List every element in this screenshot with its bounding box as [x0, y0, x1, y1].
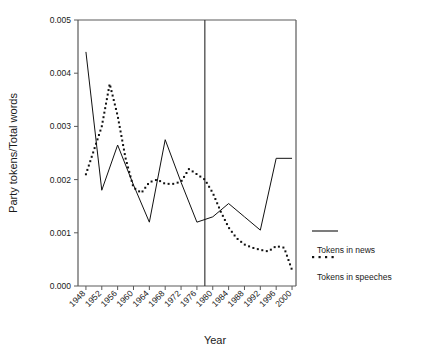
data-dot: [284, 250, 286, 252]
data-dot: [113, 99, 115, 101]
data-dot: [220, 211, 222, 213]
data-dot: [270, 249, 272, 251]
data-dot: [206, 182, 208, 184]
data-dot: [144, 187, 146, 189]
data-dot: [213, 194, 215, 196]
data-dot: [172, 183, 174, 185]
data-dot: [163, 182, 165, 184]
data-dot: [125, 158, 127, 160]
data-dot: [138, 190, 140, 192]
data-dot: [188, 168, 190, 170]
data-dot: [116, 112, 118, 114]
chart-legend: Tokens in news Tokens in speeches: [312, 231, 392, 282]
data-dot: [168, 183, 170, 185]
x-tick-label: 1976: [178, 288, 199, 309]
data-dot: [185, 172, 187, 174]
data-dot: [92, 151, 94, 153]
y-tick-label: 0.001: [50, 228, 72, 238]
data-dot: [88, 165, 90, 167]
x-tick-label: 1964: [130, 288, 151, 309]
data-dot: [240, 241, 242, 243]
data-dot: [103, 116, 105, 118]
y-tick-label: 0.005: [50, 15, 72, 25]
data-dot: [120, 135, 122, 137]
data-dot: [98, 134, 100, 136]
data-dot: [282, 247, 284, 249]
data-dot: [97, 138, 99, 140]
data-dot: [94, 147, 96, 149]
x-tick-label: 1956: [99, 288, 120, 309]
y-axis-ticks: 0.0000.0010.0020.0030.0040.005: [50, 15, 78, 291]
data-dot: [237, 238, 239, 240]
x-tick-label: 1968: [146, 288, 167, 309]
data-dot: [101, 125, 103, 127]
data-dot: [114, 103, 116, 105]
x-axis-ticks: 1948195219561960196419681972197619801984…: [67, 286, 294, 309]
legend-label-tokens-in-speeches: Tokens in speeches: [317, 272, 392, 282]
legend-swatch-dotted: [312, 256, 334, 258]
data-dot: [228, 227, 230, 229]
data-dot: [91, 156, 93, 158]
data-dot: [104, 107, 106, 109]
data-dot: [142, 190, 144, 192]
data-dot: [99, 130, 101, 132]
y-tick-label: 0.003: [50, 121, 72, 131]
x-axis-title: Year: [204, 334, 227, 346]
data-dot: [111, 90, 113, 92]
legend-label-tokens-in-news: Tokens in news: [317, 245, 375, 255]
data-dot: [252, 247, 254, 249]
legend-dot: [332, 256, 334, 258]
data-dot: [181, 180, 183, 182]
y-tick-label: 0.002: [50, 175, 72, 185]
data-dot: [266, 250, 268, 252]
data-dot: [151, 181, 153, 183]
x-tick-label: 2000: [273, 288, 294, 309]
data-dot: [112, 95, 114, 97]
x-tick-label: 1980: [194, 288, 215, 309]
data-dot: [289, 263, 291, 265]
y-axis-title: Party tokens/Total words: [7, 93, 19, 213]
data-dot: [210, 190, 212, 192]
y-tick-label: 0.004: [50, 68, 72, 78]
plot-frame: [78, 20, 296, 286]
data-dot: [183, 176, 185, 178]
data-dot: [121, 140, 123, 142]
x-tick-label: 1952: [83, 288, 104, 309]
legend-dot: [319, 256, 321, 258]
data-dot: [124, 153, 126, 155]
data-dot: [109, 86, 111, 88]
data-dot: [118, 121, 120, 123]
data-dot: [208, 186, 210, 188]
data-dot: [129, 175, 131, 177]
data-dot: [261, 249, 263, 251]
chart-figure: 0.0000.0010.0020.0030.0040.005 194819521…: [0, 0, 430, 353]
x-tick-label: 1972: [162, 288, 183, 309]
data-dot: [115, 108, 117, 110]
data-dot: [214, 198, 216, 200]
data-dot: [131, 180, 133, 182]
data-dot: [216, 202, 218, 204]
data-dot: [119, 126, 121, 128]
data-dot: [192, 170, 194, 172]
data-dot: [132, 184, 134, 186]
series-tokens-in-speeches: [85, 85, 293, 270]
x-tick-label: 1992: [241, 288, 262, 309]
data-dot: [224, 219, 226, 221]
data-dot: [159, 180, 161, 182]
x-tick-label: 1996: [257, 288, 278, 309]
data-dot: [122, 144, 124, 146]
series-tokens-in-news: [86, 52, 292, 230]
chart-canvas: 0.0000.0010.0020.0030.0040.005 194819521…: [0, 0, 430, 353]
data-dot: [177, 182, 179, 184]
legend-dot: [325, 256, 327, 258]
data-dot: [108, 89, 110, 91]
data-dot: [291, 268, 293, 270]
data-dot: [95, 143, 97, 145]
data-dot: [86, 169, 88, 171]
data-dot: [195, 173, 197, 175]
data-dot: [126, 162, 128, 164]
data-dot: [117, 117, 119, 119]
data-dot: [274, 246, 276, 248]
data-dot: [226, 223, 228, 225]
data-dot: [203, 178, 205, 180]
